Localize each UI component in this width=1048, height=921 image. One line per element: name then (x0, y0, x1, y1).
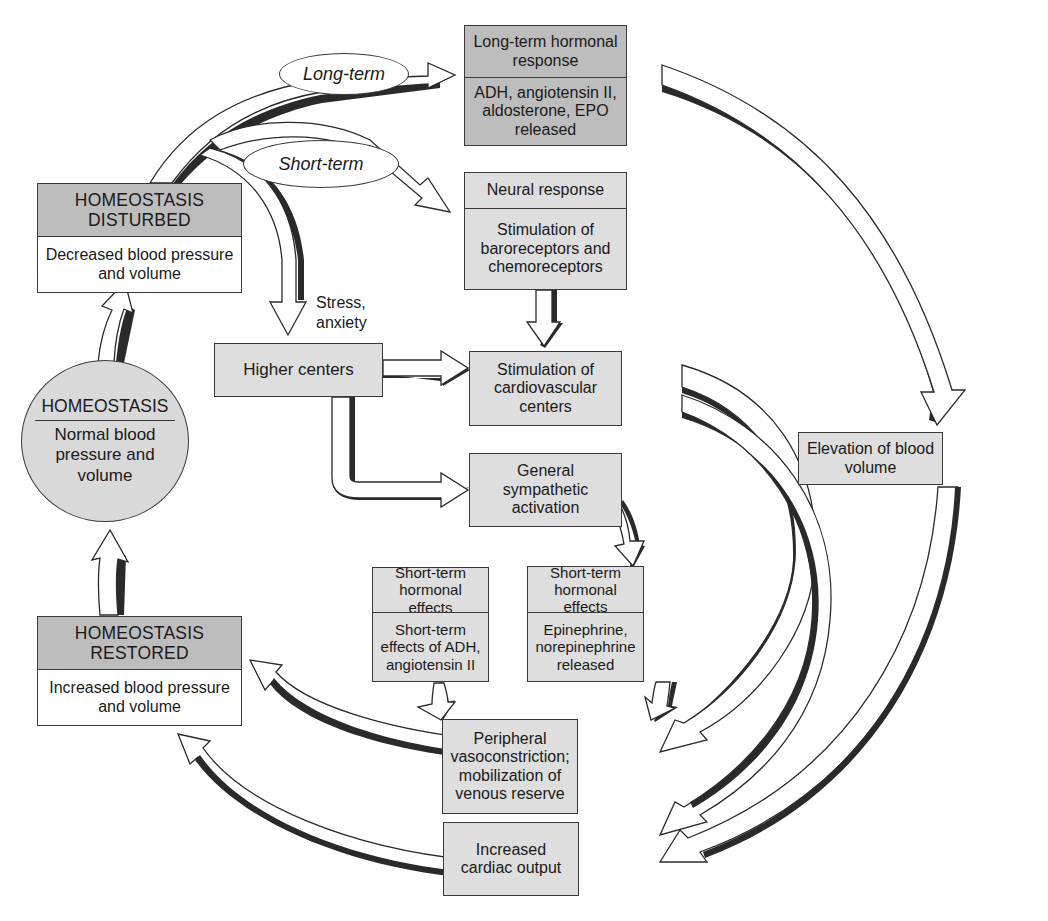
node-blood-volume: Elevation of blood volume (798, 432, 943, 485)
node-cardiovascular-centers: Stimulation of cardiovascular centers (469, 351, 622, 426)
arrow-epi-to-peripheral (645, 682, 678, 722)
node-body: Stimulation of cardiovascular centers (470, 352, 621, 425)
node-header: HOMEOSTASIS DISTURBED (38, 184, 241, 236)
node-body: Short-term effects of ADH, angiotensin I… (373, 612, 488, 681)
node-body: Peripheral vasoconstriction; mobilizatio… (443, 720, 577, 813)
node-header: HOMEOSTASIS RESTORED (38, 617, 241, 669)
node-homeostasis-restored: HOMEOSTASIS RESTORED Increased blood pre… (37, 616, 242, 726)
arrow-neural-to-cardio (527, 290, 563, 348)
label-stress-anxiety: Stress, anxiety (316, 293, 386, 333)
node-neural-response: Neural response Stimulation of barorecep… (464, 172, 627, 290)
node-body: Epinephrine, norepinephrine released (528, 612, 643, 681)
node-header: Long-term hormonal response (465, 26, 626, 77)
oval-long-term: Long-term (279, 53, 409, 95)
oval-long-term-label: Long-term (303, 64, 385, 85)
node-header: Neural response (465, 173, 626, 208)
node-header: HOMEOSTASIS (35, 396, 175, 421)
node-body: ADH, angiotensin II, aldosterone, EPO re… (465, 77, 626, 145)
node-body: General sympathetic activation (470, 454, 621, 526)
node-peripheral-vasoconstriction: Peripheral vasoconstriction; mobilizatio… (442, 719, 578, 814)
node-body: Decreased blood pressure and volume (38, 236, 241, 292)
node-header: Short-term hormonal effects (373, 568, 488, 612)
node-higher-centers: Higher centers (214, 343, 383, 397)
node-body: Elevation of blood volume (799, 433, 942, 484)
node-header: Short-term hormonal effects (528, 567, 643, 612)
node-body: Increased cardiac output (444, 823, 578, 895)
oval-short-term-label: Short-term (278, 154, 363, 175)
arrow-longterm-to-volume (662, 65, 965, 425)
node-sympathetic-activation: General sympathetic activation (469, 453, 622, 527)
node-homeostasis: HOMEOSTASIS Normal blood pressure and vo… (21, 360, 189, 522)
arrow-higher-to-cardio (383, 351, 470, 386)
node-body: Stimulation of baroreceptors and chemore… (465, 208, 626, 289)
arrow-restored-to-homeostasis (92, 530, 128, 615)
node-body: Higher centers (215, 344, 382, 396)
node-cardiac-output: Increased cardiac output (443, 822, 579, 896)
arrow-adh-to-peripheral (418, 682, 455, 720)
arrow-homeostasis-to-disturbed (98, 282, 135, 363)
oval-short-term: Short-term (243, 140, 399, 188)
node-st-hormonal-adh: Short-term hormonal effects Short-term e… (372, 567, 489, 682)
node-homeostasis-disturbed: HOMEOSTASIS DISTURBED Decreased blood pr… (37, 183, 242, 293)
node-long-term-hormonal: Long-term hormonal response ADH, angiote… (464, 25, 627, 146)
arrow-output-to-restored (178, 734, 470, 878)
node-st-hormonal-epi: Short-term hormonal effects Epinephrine,… (527, 566, 644, 682)
arrow-higher-to-sympathetic (332, 397, 470, 507)
node-body: Increased blood pressure and volume (38, 669, 241, 725)
node-body: Normal blood pressure and volume (43, 421, 168, 486)
